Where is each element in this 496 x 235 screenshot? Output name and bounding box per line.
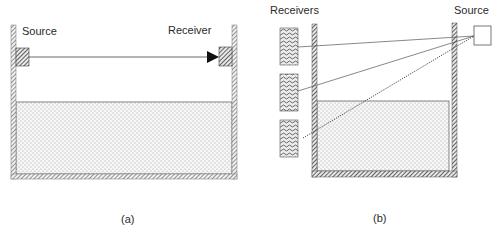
source-label-b: Source (454, 4, 489, 16)
liquid-fill (16, 102, 232, 174)
caption-a: (a) (121, 213, 134, 225)
path-to-receiver-1 (298, 36, 474, 47)
path-to-receiver-2 (298, 36, 474, 91)
receiver-1 (280, 28, 298, 65)
caption-b: (b) (373, 212, 386, 224)
receiver-label-a: Receiver (168, 24, 211, 36)
arrowhead-icon (207, 51, 219, 63)
tank-left-wall (312, 24, 317, 177)
panel-b (280, 23, 491, 177)
liquid-fill (317, 101, 449, 171)
panel-a (11, 25, 237, 179)
receiver-2 (280, 74, 298, 111)
source-label-a: Source (22, 25, 57, 37)
receiver-transducer (219, 47, 232, 66)
receiver-3 (280, 120, 298, 157)
source-transducer (16, 48, 29, 66)
source-box (474, 26, 491, 45)
tank-left-wall (11, 25, 16, 179)
receivers-label-b: Receivers (270, 4, 319, 16)
tank-right-wall (232, 25, 237, 179)
diagram-canvas (0, 0, 496, 235)
tank-bottom-wall (312, 171, 457, 177)
tank-bottom-wall (11, 174, 237, 179)
